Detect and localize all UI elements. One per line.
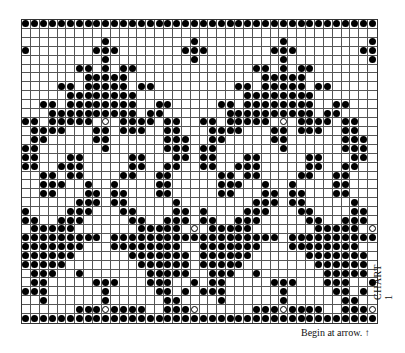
grid-cell: [368, 127, 377, 136]
grid-cell: [262, 38, 271, 47]
grid-cell: [217, 305, 226, 314]
filled-stitch-dot: [350, 296, 359, 305]
filled-stitch-dot: [359, 305, 368, 314]
filled-stitch-dot: [271, 305, 280, 314]
filled-stitch-dot: [31, 20, 40, 29]
grid-cell: [191, 180, 200, 189]
grid-cell: [297, 136, 306, 145]
filled-stitch-dot: [306, 234, 315, 243]
grid-cell: [324, 145, 333, 154]
grid-cell: [40, 163, 49, 172]
grid-cell: [342, 29, 351, 38]
filled-stitch-dot: [262, 100, 271, 109]
grid-cell: [235, 198, 244, 207]
filled-stitch-dot: [31, 127, 40, 136]
grid-cell: [315, 270, 324, 279]
grid-cell: [333, 82, 342, 91]
filled-stitch-dot: [49, 270, 58, 279]
filled-stitch-dot: [22, 163, 31, 172]
grid-cell: [40, 38, 49, 47]
filled-stitch-dot: [279, 145, 288, 154]
grid-cell: [244, 136, 253, 145]
grid-cell: [350, 38, 359, 47]
grid-cell: [111, 154, 120, 163]
grid-cell: [253, 252, 262, 261]
filled-stitch-dot: [350, 261, 359, 270]
grid-cell: [324, 180, 333, 189]
filled-stitch-dot: [271, 82, 280, 91]
filled-stitch-dot: [22, 287, 31, 296]
grid-cell: [297, 29, 306, 38]
filled-stitch-dot: [333, 243, 342, 252]
filled-stitch-dot: [217, 189, 226, 198]
filled-stitch-dot: [49, 189, 58, 198]
grid-cell: [40, 118, 49, 127]
grid-cell: [58, 189, 67, 198]
filled-stitch-dot: [208, 118, 217, 127]
grid-cell: [288, 154, 297, 163]
grid-cell: [58, 278, 67, 287]
filled-stitch-dot: [315, 118, 324, 127]
grid-cell: [93, 65, 102, 74]
grid-cell: [49, 287, 58, 296]
grid-cell: [226, 287, 235, 296]
filled-stitch-dot: [66, 243, 75, 252]
grid-cell: [173, 180, 182, 189]
grid-cell: [350, 278, 359, 287]
filled-stitch-dot: [155, 100, 164, 109]
grid-cell: [244, 180, 253, 189]
grid-cell: [333, 56, 342, 65]
grid-cell: [359, 296, 368, 305]
grid-cell: [315, 100, 324, 109]
filled-stitch-dot: [111, 91, 120, 100]
filled-stitch-dot: [120, 198, 129, 207]
filled-stitch-dot: [200, 216, 209, 225]
grid-cell: [297, 145, 306, 154]
grid-cell: [173, 100, 182, 109]
filled-stitch-dot: [31, 234, 40, 243]
filled-stitch-dot: [102, 296, 111, 305]
filled-stitch-dot: [155, 172, 164, 181]
filled-stitch-dot: [164, 216, 173, 225]
grid-cell: [120, 296, 129, 305]
grid-cell: [155, 118, 164, 127]
filled-stitch-dot: [333, 189, 342, 198]
grid-cell: [315, 29, 324, 38]
grid-cell: [155, 163, 164, 172]
filled-stitch-dot: [244, 234, 253, 243]
filled-stitch-dot: [350, 145, 359, 154]
grid-cell: [93, 261, 102, 270]
grid-cell: [208, 296, 217, 305]
grid-cell: [368, 216, 377, 225]
filled-stitch-dot: [120, 91, 129, 100]
filled-stitch-dot: [306, 207, 315, 216]
grid-cell: [137, 109, 146, 118]
grid-cell: [58, 305, 67, 314]
filled-stitch-dot: [164, 296, 173, 305]
filled-stitch-dot: [66, 154, 75, 163]
grid-cell: [93, 154, 102, 163]
filled-stitch-dot: [129, 20, 138, 29]
grid-cell: [279, 180, 288, 189]
filled-stitch-dot: [244, 252, 253, 261]
grid-cell: [262, 47, 271, 56]
grid-cell: [93, 172, 102, 181]
filled-stitch-dot: [182, 154, 191, 163]
grid-cell: [368, 180, 377, 189]
filled-stitch-dot: [111, 314, 120, 323]
filled-stitch-dot: [93, 47, 102, 56]
filled-stitch-dot: [111, 189, 120, 198]
grid-cell: [146, 47, 155, 56]
grid-cell: [200, 225, 209, 234]
filled-stitch-dot: [31, 287, 40, 296]
filled-stitch-dot: [217, 100, 226, 109]
filled-stitch-dot: [288, 189, 297, 198]
grid-cell: [58, 65, 67, 74]
grid-cell: [333, 216, 342, 225]
filled-stitch-dot: [102, 278, 111, 287]
filled-stitch-dot: [173, 270, 182, 279]
filled-stitch-dot: [253, 91, 262, 100]
filled-stitch-dot: [226, 261, 235, 270]
grid-cell: [173, 29, 182, 38]
filled-stitch-dot: [342, 189, 351, 198]
